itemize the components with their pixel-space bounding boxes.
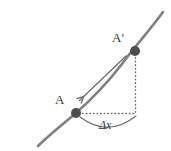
- diagram-svg: [0, 0, 171, 151]
- point-label-a-prime: A′: [112, 31, 124, 44]
- point-label-a: A: [55, 93, 64, 106]
- diagram-canvas: A A′ Δx: [0, 0, 171, 151]
- arrow-a-prime-to-a: [80, 56, 127, 101]
- point-marker-a: [71, 108, 81, 118]
- delta-x-label: Δx: [99, 119, 111, 131]
- point-marker-a-prime: [130, 46, 140, 56]
